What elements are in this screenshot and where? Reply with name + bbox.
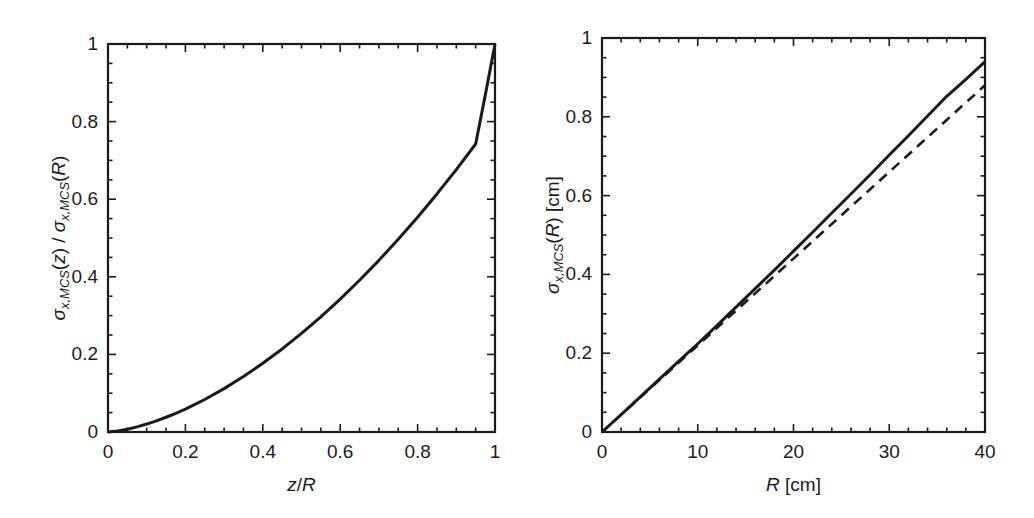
y-tick-label: 0 [581, 421, 592, 443]
y-tick-label: 0.6 [72, 188, 98, 210]
y-tick-label: 0.6 [566, 185, 592, 207]
y-tick-label: 0.8 [566, 106, 592, 128]
chart-panel-left: 00.20.40.60.8100.20.40.60.81z/Rσx,MCS(z)… [0, 0, 517, 518]
x-tick-label: 0 [103, 441, 114, 463]
y-tick-label: 1 [581, 27, 592, 49]
x-tick-label: 1 [490, 441, 501, 463]
y-tick-label: 0.4 [566, 263, 592, 285]
y-tick-label: 0.4 [72, 266, 98, 288]
axis-frame [108, 44, 495, 432]
y-tick-label: 0.2 [566, 342, 592, 364]
y-tick-label: 1 [87, 33, 98, 55]
x-tick-label: 20 [783, 441, 804, 463]
figure-canvas: 00.20.40.60.8100.20.40.60.81z/Rσx,MCS(z)… [0, 0, 1034, 518]
chart-panel-right: 01020304000.20.40.60.81R [cm]σx,MCS(R) [… [517, 0, 1034, 518]
x-tick-label: 10 [687, 441, 708, 463]
y-tick-label: 0 [87, 421, 98, 443]
x-axis-title: R [cm] [766, 474, 821, 496]
right-plot-area [517, 0, 1034, 518]
y-tick-label: 0.8 [72, 111, 98, 133]
x-tick-label: 0.8 [404, 441, 430, 463]
x-tick-label: 40 [974, 441, 995, 463]
x-tick-label: 0 [597, 441, 608, 463]
x-tick-label: 0.2 [172, 441, 198, 463]
x-axis-title: z/R [287, 474, 316, 496]
y-axis-title: σx,MCS(R) [cm] [542, 176, 566, 294]
y-axis-title: σx,MCS(z) / σx,MCS(R) [48, 156, 72, 321]
x-tick-label: 30 [879, 441, 900, 463]
x-tick-label: 0.4 [250, 441, 276, 463]
axis-frame [602, 38, 985, 432]
y-tick-label: 0.2 [72, 343, 98, 365]
x-tick-label: 0.6 [327, 441, 353, 463]
